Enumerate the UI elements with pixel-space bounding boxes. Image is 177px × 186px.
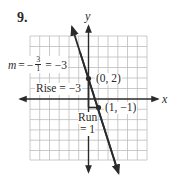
slope-result: = −3 <box>45 59 67 71</box>
point-label-1-neg1: (1, −1) <box>104 102 137 114</box>
point-0-2 <box>86 76 91 81</box>
slope-annotation: m = − 3 1 = −3 <box>8 56 68 73</box>
point-1-neg1 <box>96 105 101 110</box>
slope-denominator: 1 <box>36 65 40 73</box>
rise-label: Rise = −3 <box>35 83 82 95</box>
run-label: Run <box>78 112 97 124</box>
slope-m: m <box>8 59 16 71</box>
coordinate-plane <box>0 0 177 186</box>
y-axis-label: y <box>85 10 90 22</box>
point-label-0-2: (0, 2) <box>95 73 122 85</box>
run-value: = 1 <box>80 124 95 136</box>
slope-minus: − <box>27 59 34 71</box>
slope-fraction: 3 1 <box>35 56 41 73</box>
slope-equals: = <box>18 59 25 71</box>
x-axis-label: x <box>162 93 167 105</box>
